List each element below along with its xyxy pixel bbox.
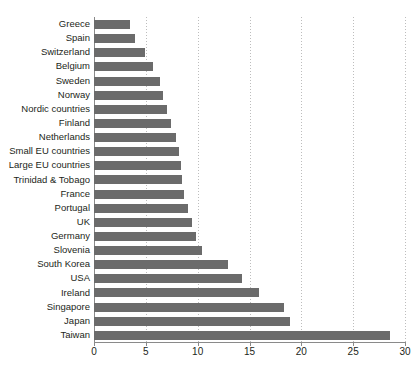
- x-tick-label: 20: [286, 346, 316, 358]
- category-label: Finland: [0, 117, 90, 128]
- category-label: Taiwan: [0, 329, 90, 340]
- bar-row: [94, 116, 405, 130]
- bar-row: [94, 300, 405, 314]
- category-label: Netherlands: [0, 131, 90, 142]
- bar-row: [94, 201, 405, 215]
- category-label: USA: [0, 272, 90, 283]
- bar: [94, 317, 290, 326]
- bar-row: [94, 17, 405, 31]
- x-tick-label: 25: [338, 346, 368, 358]
- category-label: Sweden: [0, 75, 90, 86]
- category-label: UK: [0, 216, 90, 227]
- bar: [94, 246, 202, 255]
- bar: [94, 161, 181, 170]
- bar: [94, 175, 182, 184]
- bar: [94, 133, 176, 142]
- bar: [94, 218, 192, 227]
- bar: [94, 119, 171, 128]
- category-labels: GreeceSpainSwitzerlandBelgiumSwedenNorwa…: [0, 17, 90, 342]
- bar: [94, 288, 259, 297]
- category-label: Small EU countries: [0, 145, 90, 156]
- bar: [94, 77, 160, 86]
- x-tick-label: 0: [79, 346, 109, 358]
- bar-row: [94, 102, 405, 116]
- bar: [94, 34, 135, 43]
- category-label: Singapore: [0, 301, 90, 312]
- category-label: France: [0, 188, 90, 199]
- x-tick-label: 15: [235, 346, 265, 358]
- bar-row: [94, 45, 405, 59]
- bar: [94, 48, 145, 57]
- bar: [94, 232, 196, 241]
- category-label: Large EU countries: [0, 159, 90, 170]
- bar: [94, 331, 390, 340]
- category-label: Slovenia: [0, 244, 90, 255]
- bar-row: [94, 88, 405, 102]
- bar-row: [94, 172, 405, 186]
- category-label: Portugal: [0, 202, 90, 213]
- bar-row: [94, 257, 405, 271]
- category-label: Trinidad & Tobago: [0, 174, 90, 185]
- bar-row: [94, 130, 405, 144]
- x-tick-label: 5: [131, 346, 161, 358]
- bar-row: [94, 74, 405, 88]
- gridline-30: [405, 17, 406, 342]
- bar-row: [94, 243, 405, 257]
- bar-row: [94, 144, 405, 158]
- bar-row: [94, 229, 405, 243]
- x-tick-label: 10: [183, 346, 213, 358]
- bar-row: [94, 187, 405, 201]
- bars-layer: [94, 17, 405, 342]
- bar: [94, 62, 153, 71]
- bar: [94, 20, 130, 29]
- bar-row: [94, 215, 405, 229]
- category-label: Greece: [0, 18, 90, 29]
- category-label: Japan: [0, 315, 90, 326]
- category-label: South Korea: [0, 258, 90, 269]
- category-label: Ireland: [0, 287, 90, 298]
- bar: [94, 274, 242, 283]
- bar: [94, 204, 188, 213]
- category-label: Germany: [0, 230, 90, 241]
- bar-row: [94, 31, 405, 45]
- bar: [94, 147, 179, 156]
- category-label: Switzerland: [0, 46, 90, 57]
- bar-row: [94, 59, 405, 73]
- x-tick-label: 30: [390, 346, 419, 358]
- bar-row: [94, 285, 405, 299]
- bar: [94, 105, 167, 114]
- category-label: Spain: [0, 32, 90, 43]
- category-label: Belgium: [0, 60, 90, 71]
- bar: [94, 303, 284, 312]
- bar-row: [94, 314, 405, 328]
- category-label: Norway: [0, 89, 90, 100]
- bar: [94, 190, 184, 199]
- bar-row: [94, 271, 405, 285]
- bar: [94, 91, 163, 100]
- bar: [94, 260, 228, 269]
- bar-row: [94, 158, 405, 172]
- category-label: Nordic countries: [0, 103, 90, 114]
- bar-row: [94, 328, 405, 342]
- bar-chart: GreeceSpainSwitzerlandBelgiumSwedenNorwa…: [0, 0, 419, 367]
